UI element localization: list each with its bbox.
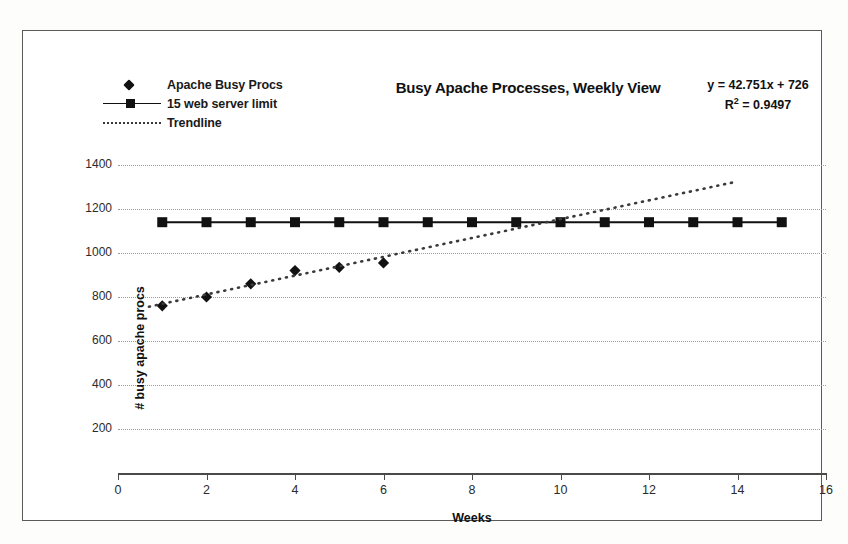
square-marker bbox=[202, 217, 212, 227]
r-squared-value: R2 = 0.9497 bbox=[678, 93, 838, 113]
y-axis-tick-label: 200 bbox=[52, 421, 112, 435]
chart-figure: Apache Busy Procs 15 web server limit Tr… bbox=[0, 0, 848, 544]
x-axis-tick-label: 16 bbox=[806, 483, 846, 497]
x-axis-tick bbox=[295, 473, 296, 480]
square-marker bbox=[423, 217, 433, 227]
diamond-marker bbox=[245, 278, 256, 289]
r-squared-label: R bbox=[725, 98, 734, 112]
trendline-equation-annotation: y = 42.751x + 726 R2 = 0.9497 bbox=[678, 77, 838, 113]
x-axis-tick bbox=[826, 473, 827, 480]
chart-title: Busy Apache Processes, Weekly View bbox=[378, 79, 678, 96]
y-axis-tick-label: 600 bbox=[52, 333, 112, 347]
r-squared-number: = 0.9497 bbox=[739, 98, 791, 112]
chart-legend: Apache Busy Procs 15 web server limit Tr… bbox=[97, 75, 347, 132]
square-marker bbox=[733, 217, 743, 227]
x-axis-tick bbox=[118, 473, 119, 480]
diamond-marker bbox=[378, 257, 389, 268]
x-axis-tick-label: 8 bbox=[452, 483, 492, 497]
trendline-path bbox=[149, 182, 738, 307]
square-marker bbox=[379, 217, 389, 227]
y-axis-tick-label: 1400 bbox=[52, 157, 112, 171]
square-marker bbox=[290, 217, 300, 227]
legend-item-trendline[interactable]: Trendline bbox=[97, 113, 347, 132]
square-marker bbox=[334, 217, 344, 227]
x-axis-tick bbox=[384, 473, 385, 480]
y-axis-tick-label: 400 bbox=[52, 377, 112, 391]
line-square-marker-icon bbox=[97, 95, 167, 113]
x-axis-tick-label: 2 bbox=[187, 483, 227, 497]
legend-item-label: Apache Busy Procs bbox=[167, 78, 283, 92]
square-marker bbox=[600, 217, 610, 227]
square-marker bbox=[157, 217, 167, 227]
square-marker bbox=[511, 217, 521, 227]
square-marker bbox=[467, 217, 477, 227]
x-axis-title: Weeks bbox=[118, 511, 826, 525]
legend-item-label: 15 web server limit bbox=[167, 97, 277, 111]
y-axis-tick-label: 1200 bbox=[52, 201, 112, 215]
trendline-equation: y = 42.751x + 726 bbox=[678, 77, 838, 93]
series-trendline bbox=[149, 182, 738, 307]
chart-plot-frame: Apache Busy Procs 15 web server limit Tr… bbox=[22, 30, 822, 521]
x-axis-tick-label: 6 bbox=[364, 483, 404, 497]
x-axis-tick bbox=[649, 473, 650, 480]
x-axis-tick bbox=[472, 473, 473, 480]
diamond-marker bbox=[157, 300, 168, 311]
legend-item-apache-busy-procs[interactable]: Apache Busy Procs bbox=[97, 75, 347, 94]
square-marker bbox=[246, 217, 256, 227]
diamond-marker-icon bbox=[97, 76, 167, 94]
x-axis-tick bbox=[561, 473, 562, 480]
y-axis-tick-label: 1000 bbox=[52, 245, 112, 259]
x-axis-tick-label: 12 bbox=[629, 483, 669, 497]
x-axis-tick-label: 0 bbox=[98, 483, 138, 497]
x-axis-tick bbox=[207, 473, 208, 480]
dotted-line-icon bbox=[97, 114, 167, 132]
y-axis-tick-label: 800 bbox=[52, 289, 112, 303]
x-axis-tick-label: 10 bbox=[541, 483, 581, 497]
square-marker bbox=[644, 217, 654, 227]
square-marker bbox=[777, 217, 787, 227]
x-axis-tick bbox=[738, 473, 739, 480]
x-axis-tick-label: 14 bbox=[718, 483, 758, 497]
legend-item-label: Trendline bbox=[167, 116, 222, 130]
plot-area: 200400600800100012001400 # busy apache p… bbox=[118, 143, 826, 473]
series-apache-busy-procs bbox=[157, 257, 389, 311]
legend-item-web-server-limit[interactable]: 15 web server limit bbox=[97, 94, 347, 113]
series-15-web-server-limit bbox=[157, 217, 787, 227]
x-axis-tick-label: 4 bbox=[275, 483, 315, 497]
data-series-layer bbox=[118, 143, 826, 473]
y-axis-title: # busy apache procs bbox=[133, 248, 147, 448]
square-marker bbox=[688, 217, 698, 227]
